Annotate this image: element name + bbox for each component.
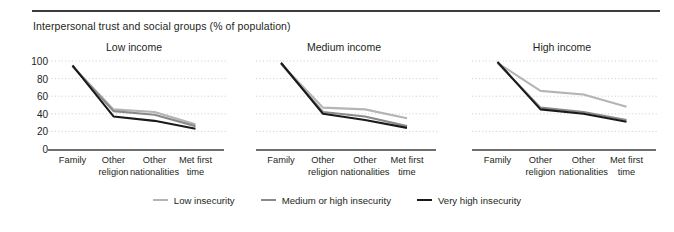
chart-legend: Low insecurityMedium or high insecurityV… — [0, 192, 674, 208]
x-axis-label-line: Met first — [168, 155, 222, 167]
plot-svg — [476, 61, 648, 149]
series-line-very-high-insecurity — [281, 63, 407, 128]
y-axis-tick-20: 20 — [37, 126, 48, 137]
legend-label: Medium or high insecurity — [282, 195, 391, 206]
x-axis-label-3: Met firsttime — [598, 155, 655, 178]
plot-area — [260, 61, 428, 149]
x-axis-line — [48, 149, 224, 151]
y-axis-tick-60: 60 — [37, 91, 48, 102]
plot-area — [476, 61, 648, 149]
figure-title: Interpersonal trust and social groups (%… — [33, 20, 291, 33]
chart-panel-high-income: High incomeFamilyOtherreligionOthernatio… — [452, 41, 662, 186]
series-line-low-insecurity — [281, 64, 407, 119]
chart-figure: Interpersonal trust and social groups (%… — [0, 0, 674, 232]
legend-item-low-insecurity: Low insecurity — [153, 195, 235, 206]
chart-panel-low-income: Low income100806040200FamilyOtherreligio… — [18, 41, 230, 186]
plot-svg — [260, 61, 428, 149]
legend-swatch-medium-or-high-insecurity — [261, 199, 276, 202]
x-axis-label-line: time — [379, 167, 434, 179]
y-axis-tick-100: 100 — [31, 56, 48, 67]
series-line-low-insecurity — [73, 66, 196, 124]
x-axis-label-line: time — [168, 167, 222, 179]
panels-container: Low income100806040200FamilyOtherreligio… — [0, 41, 674, 186]
figure-top-rule — [32, 10, 660, 12]
x-axis-label-line: Met first — [379, 155, 434, 167]
panel-title: High income — [476, 41, 648, 53]
x-axis-labels: FamilyOtherreligionOthernationalitiesMet… — [476, 155, 648, 187]
y-axis-tick-80: 80 — [37, 73, 48, 84]
legend-item-medium-or-high-insecurity: Medium or high insecurity — [261, 195, 391, 206]
x-axis-label-line: Met first — [598, 155, 655, 167]
plot-area — [52, 61, 216, 149]
legend-item-very-high-insecurity: Very high insecurity — [417, 195, 521, 206]
plot-svg — [52, 61, 216, 149]
y-axis-tick-40: 40 — [37, 108, 48, 119]
x-axis-labels: FamilyOtherreligionOthernationalitiesMet… — [52, 155, 216, 187]
panel-title: Low income — [52, 41, 216, 53]
x-axis-labels: FamilyOtherreligionOthernationalitiesMet… — [260, 155, 428, 187]
x-axis-line — [256, 149, 436, 151]
legend-label: Very high insecurity — [438, 195, 521, 206]
legend-swatch-very-high-insecurity — [417, 199, 432, 202]
x-axis-label-line: time — [598, 167, 655, 179]
chart-panel-medium-income: Medium incomeFamilyOtherreligionOthernat… — [238, 41, 442, 186]
panel-title: Medium income — [260, 41, 428, 53]
x-axis-label-3: Met firsttime — [379, 155, 434, 178]
y-axis-labels: 100806040200 — [22, 61, 48, 149]
legend-swatch-low-insecurity — [153, 199, 168, 202]
x-axis-line — [472, 149, 656, 151]
x-axis-label-3: Met firsttime — [168, 155, 222, 178]
legend-label: Low insecurity — [174, 195, 235, 206]
